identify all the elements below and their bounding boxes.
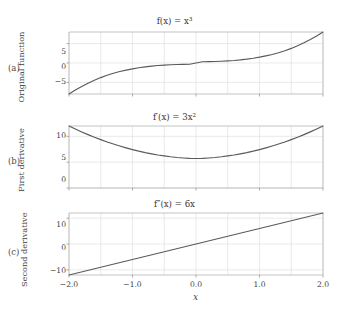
panel-c-ytick-1: 0 (40, 243, 66, 252)
panel-b-ytick-2: 0 (40, 175, 66, 184)
panel-c-ylabel: Second derivative (19, 213, 29, 287)
panel-b: f′(x) = 3x² (b) First derivative 10 5 0 (0, 104, 349, 194)
xtick-3: 1.0 (240, 280, 280, 289)
panel-c-title: f″(x) = 6x (0, 199, 349, 209)
panel-a-title: f(x) = x³ (0, 16, 349, 26)
panel-a-ytick-0: 5 (40, 47, 66, 56)
panel-a-ylabel: Original function (16, 31, 26, 103)
panel-a-ytick-2: −5 (40, 77, 66, 86)
panel-b-ytick-0: 10 (40, 131, 66, 140)
panel-c-ytick-0: 10 (40, 220, 66, 229)
xtick-0: −2.0 (49, 280, 89, 289)
panel-b-axes (69, 126, 323, 188)
xtick-2: 0.0 (176, 280, 216, 289)
xtick-4: 2.0 (303, 280, 343, 289)
panel-c: f″(x) = 6x (c) Second derivative 10 0 −1… (0, 194, 349, 320)
panel-b-title: f′(x) = 3x² (0, 112, 349, 122)
panel-a: f(x) = x³ (a) Original function 5 0 −5 (0, 0, 349, 104)
panel-c-ytick-2: −10 (40, 266, 66, 275)
panel-a-axes (69, 32, 323, 94)
panel-c-letter: (c) (8, 247, 19, 257)
panel-b-ytick-1: 5 (40, 153, 66, 162)
xtick-1: −1.0 (113, 280, 153, 289)
x-axis-label: x (21, 292, 349, 302)
panel-a-ytick-1: 0 (40, 62, 66, 71)
panel-b-gridlines-vertical (69, 126, 323, 188)
panel-b-ylabel: First derivative (16, 126, 26, 194)
panel-c-axes (69, 213, 323, 275)
derivative-figure: f(x) = x³ (a) Original function 5 0 −5 (0, 0, 349, 320)
